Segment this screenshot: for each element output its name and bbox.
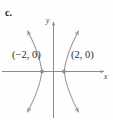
vertex-point-left (40, 70, 44, 74)
axes-group (2, 22, 104, 118)
vertex-label-right: (2, 0) (71, 50, 94, 61)
vertex-label-left: (−2, 0) (12, 50, 41, 61)
y-axis-label: y (46, 17, 49, 25)
vertex-point-right (62, 70, 66, 74)
right-branch-lower (64, 72, 79, 113)
x-axis-label: x (104, 73, 107, 81)
left-branch-lower (28, 72, 43, 113)
